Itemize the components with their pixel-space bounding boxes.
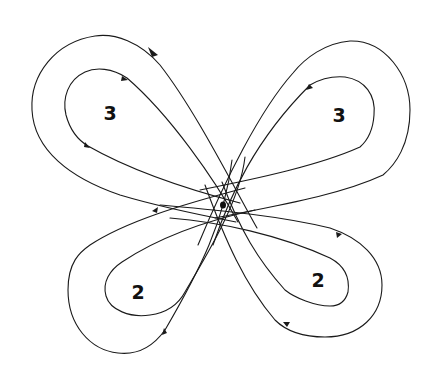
- loop-bottom-right: [160, 182, 382, 337]
- loop-top-left: [32, 35, 257, 228]
- center-point: [220, 201, 226, 208]
- arrow-icon: [283, 322, 290, 327]
- loop-bottom-left: [68, 157, 255, 353]
- loop-label-top-right: 3: [332, 106, 345, 125]
- curve-top-left-inner: [65, 69, 240, 222]
- loop-label-bottom-right: 2: [311, 271, 324, 290]
- curve-bottom-right-outer: [160, 185, 382, 337]
- curve-bottom-left-inner: [105, 157, 255, 316]
- loop-label-top-left: 3: [103, 104, 116, 123]
- arrow-icon: [306, 84, 313, 90]
- curve-top-left-outer: [32, 35, 257, 228]
- loop-top-right: [198, 41, 410, 245]
- arrow-icon: [152, 207, 158, 213]
- curve-top-right-outer: [198, 41, 410, 245]
- orbit-diagram: [0, 0, 440, 377]
- arrow-icon: [148, 47, 158, 57]
- arrow-icon: [162, 328, 167, 335]
- loop-label-bottom-left: 2: [131, 283, 144, 302]
- arrow-icon: [84, 142, 90, 148]
